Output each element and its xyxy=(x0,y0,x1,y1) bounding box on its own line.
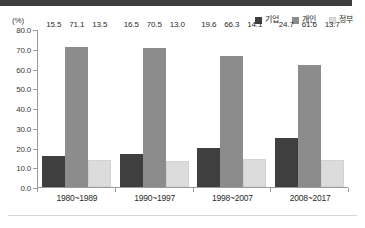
bar-group: 15.571.113.5 xyxy=(38,30,116,187)
bar-value-label: 71.1 xyxy=(69,20,84,29)
bar-value-label: 70.5 xyxy=(147,20,162,29)
footer-divider xyxy=(8,215,357,216)
legend-label: 기업 xyxy=(265,16,279,24)
x-axis-category-label: 1990~1997 xyxy=(116,193,194,203)
bar-value-label: 13.7 xyxy=(325,20,340,29)
y-axis-tick-label: 50.0 xyxy=(16,85,31,94)
bar[interactable]: 13.0 xyxy=(166,161,189,187)
bar[interactable]: 13.5 xyxy=(88,160,111,187)
y-axis-tick xyxy=(33,70,37,71)
y-axis-tick xyxy=(33,149,37,150)
bar-value-label: 66.3 xyxy=(224,20,239,29)
bar-slot: 70.5 xyxy=(143,30,166,187)
y-axis-tick-label: 30.0 xyxy=(16,124,31,133)
x-axis-separator xyxy=(115,188,116,192)
y-axis-tick-label: 10.0 xyxy=(16,164,31,173)
y-axis-tick xyxy=(33,129,37,130)
bar-value-label: 13.5 xyxy=(92,20,107,29)
bar-slot: 71.1 xyxy=(65,30,88,187)
bar-group: 19.666.314.1 xyxy=(193,30,271,187)
y-axis-tick-label: 0.0 xyxy=(20,184,31,193)
bar-value-label: 16.5 xyxy=(124,20,139,29)
bar-value-label: 14.1 xyxy=(247,20,262,29)
x-axis-category-labels: 1980~19891990~19971998~20072008~2017 xyxy=(38,193,349,203)
bar[interactable]: 16.5 xyxy=(120,154,143,187)
bar-slot: 61.6 xyxy=(298,30,321,187)
bar-slot: 13.5 xyxy=(88,30,111,187)
bar-value-label: 19.6 xyxy=(201,20,216,29)
header-band xyxy=(0,0,352,6)
bar[interactable]: 61.6 xyxy=(298,65,321,187)
bar-slot: 13.7 xyxy=(321,30,344,187)
bar-slot: 19.6 xyxy=(197,30,220,187)
chart-figure: (%) 기업 개인 정부 0.010.020.030.040.050.060.0… xyxy=(0,0,365,228)
bar[interactable]: 66.3 xyxy=(220,56,243,187)
y-axis-tick xyxy=(33,30,37,31)
y-axis-tick-label: 40.0 xyxy=(16,105,31,114)
bar[interactable]: 19.6 xyxy=(197,148,220,187)
bar-slot: 15.5 xyxy=(42,30,65,187)
bar[interactable]: 24.7 xyxy=(275,138,298,187)
y-axis-tick-label: 20.0 xyxy=(16,144,31,153)
y-axis-tick xyxy=(33,168,37,169)
x-axis-separator xyxy=(270,188,271,192)
bar-value-label: 24.7 xyxy=(279,20,294,29)
bar-value-label: 15.5 xyxy=(46,20,61,29)
bar-group: 24.761.613.7 xyxy=(271,30,349,187)
plot-area: 0.010.020.030.040.050.060.070.080.0 15.5… xyxy=(37,30,348,188)
y-axis-unit-label: (%) xyxy=(12,16,24,25)
x-axis-separator xyxy=(193,188,194,192)
x-axis-separator xyxy=(37,188,38,192)
bar-group: 16.570.513.0 xyxy=(116,30,194,187)
y-axis-tick xyxy=(33,89,37,90)
bar-value-label: 13.0 xyxy=(170,20,185,29)
bar[interactable]: 15.5 xyxy=(42,156,65,187)
bar-slot: 13.0 xyxy=(166,30,189,187)
y-axis-tick xyxy=(33,50,37,51)
legend-label: 정부 xyxy=(339,16,353,24)
bar-value-label: 61.6 xyxy=(302,20,317,29)
x-axis-category-label: 2008~2017 xyxy=(271,193,349,203)
bar-slot: 16.5 xyxy=(120,30,143,187)
bar-slot: 66.3 xyxy=(220,30,243,187)
x-axis-separator xyxy=(348,188,349,192)
x-axis-category-label: 1998~2007 xyxy=(194,193,272,203)
bar[interactable]: 14.1 xyxy=(243,159,266,187)
y-axis-tick xyxy=(33,109,37,110)
y-axis-tick-label: 60.0 xyxy=(16,65,31,74)
bar[interactable]: 13.7 xyxy=(321,160,344,187)
bar-slot: 24.7 xyxy=(275,30,298,187)
bar[interactable]: 70.5 xyxy=(143,48,166,187)
bar[interactable]: 71.1 xyxy=(65,47,88,187)
y-axis-tick-label: 70.0 xyxy=(16,45,31,54)
x-axis-category-label: 1980~1989 xyxy=(38,193,116,203)
bar-groups: 15.571.113.516.570.513.019.666.314.124.7… xyxy=(38,30,348,187)
y-axis-tick-label: 80.0 xyxy=(16,26,31,35)
bar-slot: 14.1 xyxy=(243,30,266,187)
